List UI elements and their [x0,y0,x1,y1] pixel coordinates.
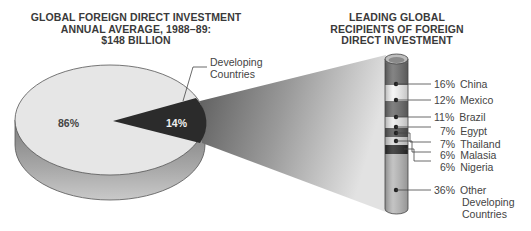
mexico-pct: 12% [434,94,455,106]
other-name-2: Developing [462,196,515,208]
svg-text:6%Nigeria: 6%Nigeria [440,161,494,173]
egypt-name: Egypt [460,125,487,137]
svg-text:11%Brazil: 11%Brazil [434,111,486,123]
recipients-cylinder [385,54,408,217]
nigeria-name: Nigeria [460,161,493,173]
brazil-pct: 11% [434,111,454,123]
svg-text:12%Mexico: 12%Mexico [434,94,493,106]
svg-text:6%Malasia: 6%Malasia [440,149,497,161]
malasia-name: Malasia [460,149,496,161]
brazil-name: Brazil [459,111,485,123]
svg-text:36%Other: 36%Other [434,184,487,196]
pie-label-14: 14% [166,117,188,129]
other-pct: 36% [434,184,455,196]
mexico-name: Mexico [460,94,493,106]
svg-text:16%China: 16%China [434,78,488,90]
other-name-3: Countries [462,208,507,220]
egypt-pct: 7% [440,125,455,137]
developing-label-line-1: Developing [210,56,263,68]
recipient-labels: 16%China 12%Mexico 11%Brazil 7%Egypt 7%T… [434,78,515,220]
pie-label-86: 86% [58,117,80,129]
developing-label-line-2: Countries [210,68,255,80]
svg-text:7%Egypt: 7%Egypt [440,125,487,137]
chart-graphic: 86% 14% Developing Countries [0,0,531,231]
other-name-1: Other [460,184,487,196]
china-name: China [460,78,488,90]
malasia-pct: 6% [440,149,455,161]
china-pct: 16% [434,78,455,90]
nigeria-pct: 6% [440,161,455,173]
